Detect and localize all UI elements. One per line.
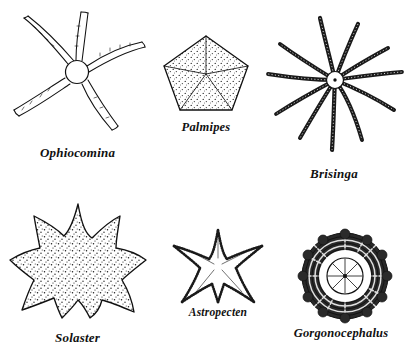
- figure-palmipes: [160, 32, 252, 114]
- figure-solaster: [8, 200, 148, 320]
- disc-center-dot: [343, 274, 347, 278]
- central-disc: [66, 61, 89, 84]
- caption-ophiocomina: Ophiocomina: [0, 145, 155, 161]
- caption-palmipes: Palmipes: [156, 120, 256, 135]
- star-body: [10, 204, 146, 318]
- illustration-plate: Ophiocomina Palmipes: [0, 0, 410, 355]
- figure-astropecten: [172, 228, 264, 304]
- caption-gorgonocephalus: Gorgonocephalus: [272, 326, 410, 341]
- figure-gorgonocephalus: [292, 230, 398, 322]
- caption-brisinga: Brisinga: [258, 166, 410, 182]
- figure-ophiocomina: [2, 6, 152, 134]
- caption-astropecten: Astropecten: [160, 306, 276, 318]
- disc-center-dot: [333, 78, 336, 81]
- caption-solaster: Solaster: [0, 330, 155, 346]
- figure-brisinga: [262, 14, 408, 154]
